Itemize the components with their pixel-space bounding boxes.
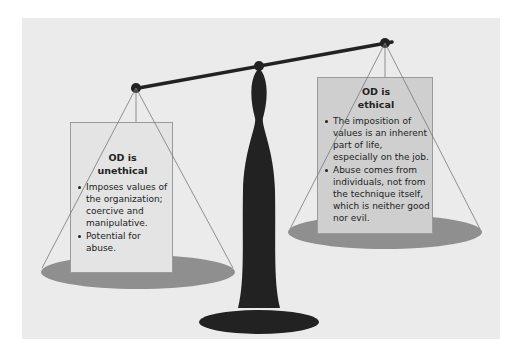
right-pan-bullets: The imposition of values is an inherent … — [322, 115, 430, 224]
list-item: The imposition of values is an inherent … — [333, 115, 430, 163]
right-title-line2: ethical — [358, 99, 394, 110]
center-pivot — [254, 61, 264, 71]
list-item: Abuse comes from individuals, not from t… — [333, 164, 430, 224]
left-title-line1: OD is — [108, 152, 136, 163]
list-item: Imposes values of the organization; coer… — [86, 181, 170, 229]
left-pivot — [131, 83, 141, 93]
list-item: Potential for abuse. — [86, 230, 170, 254]
fulcrum-stand — [238, 68, 280, 308]
left-pan-title: OD is unethical — [75, 151, 170, 177]
left-title-line2: unethical — [98, 165, 148, 176]
fulcrum-base — [199, 310, 319, 334]
right-pan-card: OD is ethical The imposition of values i… — [317, 77, 433, 234]
right-pivot — [380, 38, 390, 48]
right-pan-title: OD is ethical — [322, 85, 430, 111]
left-pan-card: OD is unethical Imposes values of the or… — [70, 122, 173, 273]
left-pan-bullets: Imposes values of the organization; coer… — [75, 181, 170, 254]
right-title-line1: OD is — [362, 86, 390, 97]
